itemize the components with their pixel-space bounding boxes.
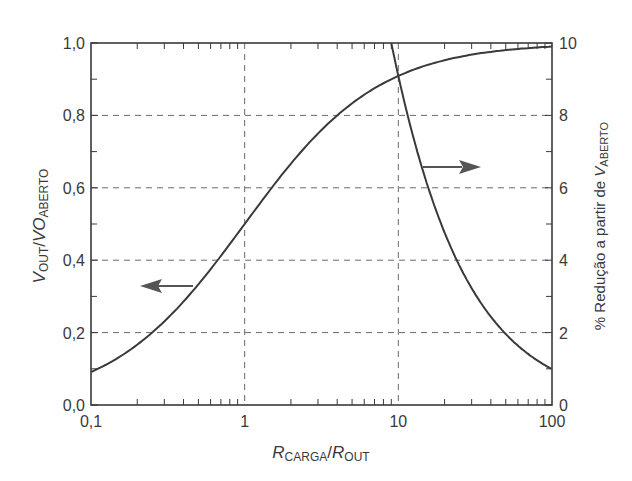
y-left-tick-label: 0,6: [63, 180, 85, 197]
right-arrow-icon: [459, 160, 481, 174]
y-right-tick-label: 6: [559, 180, 568, 197]
x-tick-label: 1: [240, 413, 249, 430]
grid-lines: [91, 43, 552, 405]
y-right-tick-label: 8: [559, 107, 568, 124]
minor-ticks: [91, 43, 552, 405]
x-tick-label: 100: [539, 413, 566, 430]
left-y-axis-tick-labels: 0,00,20,40,60,81,0: [63, 35, 85, 414]
y-left-tick-label: 0,2: [63, 325, 85, 342]
x-axis-tick-labels: 0,1110100: [80, 413, 566, 430]
yr-label-sub-aberto: ABERTO: [598, 121, 610, 166]
data-curves: [91, 43, 552, 372]
y-left-tick-label: 1,0: [63, 35, 85, 52]
x-tick-label: 0,1: [80, 413, 102, 430]
plot-frame: [91, 43, 552, 405]
x-axis-label: RCARGA/ROUT: [272, 443, 370, 464]
y-left-tick-label: 0,0: [63, 397, 85, 414]
chart-svg: 0,1110100 0,00,20,40,60,81,0 0246810 RCA…: [0, 0, 632, 481]
y-right-tick-label: 10: [559, 35, 577, 52]
y-right-tick-label: 4: [559, 252, 568, 269]
right-y-axis-label: % Redução a partir de VABERTO: [591, 121, 610, 330]
yl-label-sub-out: OUT: [37, 246, 51, 272]
x-label-sub-out: OUT: [344, 450, 370, 464]
axis-arrows: [140, 160, 481, 293]
chart: 0,1110100 0,00,20,40,60,81,0 0246810 RCA…: [0, 0, 632, 481]
y-left-tick-label: 0,4: [63, 252, 85, 269]
x-label-r: R: [272, 443, 284, 462]
percent-reduction-curve: [391, 43, 551, 369]
x-label-sub-carga: CARGA: [285, 450, 328, 464]
voltage-ratio-curve: [91, 47, 552, 373]
y-left-tick-label: 0,8: [63, 107, 85, 124]
right-y-axis-tick-labels: 0246810: [559, 35, 577, 414]
left-y-axis-label: VOUT/VOABERTO: [30, 169, 51, 284]
yl-label-vo: VO: [30, 217, 49, 242]
yl-label-sub-aberto: ABERTO: [37, 169, 51, 218]
yr-label-prefix: % Redução a partir de: [591, 177, 608, 330]
x-tick-label: 10: [389, 413, 407, 430]
y-right-tick-label: 2: [559, 325, 568, 342]
x-label-r2: R: [332, 443, 344, 462]
y-right-tick-label: 0: [559, 397, 568, 414]
